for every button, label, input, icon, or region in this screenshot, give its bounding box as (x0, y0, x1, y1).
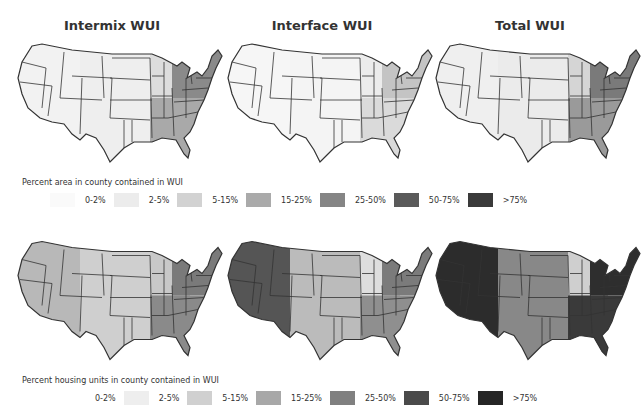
legend-label: 25-50% (365, 394, 396, 403)
legend-swatch (330, 391, 355, 405)
legend-item: 0-2% (50, 193, 106, 207)
legend-item: 25-50% (330, 391, 396, 405)
legend-item: 5-15% (187, 391, 248, 405)
map-intermix-housing (12, 233, 227, 377)
legend-swatch (478, 391, 503, 405)
title-total: Total WUI (430, 18, 630, 33)
legend-area-caption: Percent area in county contained in WUI (22, 178, 183, 187)
legend-label: 25-50% (355, 196, 386, 205)
legend-label: 0-2% (85, 196, 106, 205)
legend-item: 50-75% (394, 193, 460, 207)
us-map-3 (430, 38, 642, 173)
legend-label: 50-75% (439, 394, 470, 403)
legend-swatch (468, 193, 493, 207)
legend-item: 0-2% (60, 391, 116, 405)
us-map-4 (12, 233, 227, 373)
legend-item: 5-15% (177, 193, 238, 207)
us-map-2 (222, 38, 437, 173)
legend-housing: 0-2% 2-5% 5-15% 15-25% 25-50% 50-75% >75… (60, 391, 545, 405)
map-interface-housing (222, 233, 437, 377)
legend-swatch (246, 193, 271, 207)
legend-item: >75% (468, 193, 527, 207)
legend-swatch (404, 391, 429, 405)
legend-housing-caption: Percent housing units in county containe… (22, 376, 219, 385)
legend-label: 15-25% (291, 394, 322, 403)
us-map-1 (12, 38, 227, 173)
legend-label: >75% (513, 394, 537, 403)
legend-item: 50-75% (404, 391, 470, 405)
map-interface-area (222, 38, 437, 177)
legend-swatch (187, 391, 212, 405)
legend-item: >75% (478, 391, 537, 405)
legend-label: 50-75% (429, 196, 460, 205)
legend-swatch (177, 193, 202, 207)
legend-label: 15-25% (281, 196, 312, 205)
legend-item: 2-5% (124, 391, 180, 405)
us-map-6 (430, 233, 642, 373)
legend-swatch (320, 193, 345, 207)
legend-label: >75% (503, 196, 527, 205)
legend-label: 5-15% (212, 196, 238, 205)
us-map-5 (222, 233, 437, 373)
legend-swatch (60, 391, 85, 405)
title-intermix: Intermix WUI (12, 18, 212, 33)
title-interface: Interface WUI (222, 18, 422, 33)
legend-swatch (114, 193, 139, 207)
legend-swatch (50, 193, 75, 207)
legend-item: 15-25% (256, 391, 322, 405)
legend-label: 2-5% (149, 196, 170, 205)
legend-item: 15-25% (246, 193, 312, 207)
legend-swatch (394, 193, 419, 207)
legend-label: 0-2% (95, 394, 116, 403)
legend-area: 0-2% 2-5% 5-15% 15-25% 25-50% 50-75% >75… (50, 193, 535, 207)
legend-item: 2-5% (114, 193, 170, 207)
map-total-housing (430, 233, 642, 377)
map-total-area (430, 38, 642, 177)
legend-swatch (124, 391, 149, 405)
legend-item: 25-50% (320, 193, 386, 207)
legend-swatch (256, 391, 281, 405)
map-intermix-area (12, 38, 227, 177)
legend-label: 2-5% (159, 394, 180, 403)
legend-label: 5-15% (222, 394, 248, 403)
